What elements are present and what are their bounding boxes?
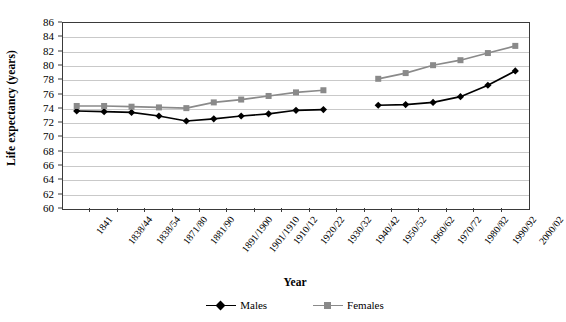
legend-swatch-icon (206, 301, 236, 310)
data-point (485, 50, 491, 56)
y-tick-label: 78 (43, 73, 54, 85)
data-point (101, 103, 107, 109)
x-tick-label: 1910/12 (290, 214, 319, 247)
chart-legend: MalesFemales (62, 299, 528, 311)
x-tick-label: 1871/80 (181, 214, 210, 247)
data-point (238, 97, 244, 103)
data-point (430, 62, 436, 68)
data-point (183, 117, 190, 124)
legend-label: Females (347, 299, 384, 311)
x-tick-label: 1838/54 (153, 214, 182, 247)
y-axis-title-text: Life expectancy (years) (5, 50, 17, 166)
data-point (429, 99, 436, 106)
x-tick-label: 1920/22 (318, 214, 347, 247)
diamond-marker-icon (216, 300, 226, 310)
legend-entry-females[interactable]: Females (313, 299, 384, 311)
series-layer (63, 23, 529, 209)
x-tick-label: 1940/42 (372, 214, 401, 247)
series-line (378, 46, 515, 79)
x-tick-label: 1970/72 (455, 214, 484, 247)
data-point (211, 99, 217, 105)
x-tick-label: 1980/82 (482, 214, 511, 247)
y-tick-label: 82 (43, 45, 54, 57)
data-point (457, 93, 464, 100)
y-tick-label: 68 (43, 145, 54, 157)
x-tick-label: 1841 (93, 214, 114, 237)
data-point (101, 108, 108, 115)
data-point (155, 112, 162, 119)
y-tick-label: 62 (43, 188, 54, 200)
data-point (484, 82, 491, 89)
series-line (378, 71, 515, 105)
x-axis-title: Year (62, 276, 528, 288)
x-axis-tick-labels: 18411838/441838/541871/801881/901891/190… (62, 214, 528, 276)
data-point (74, 103, 80, 109)
data-point (183, 105, 189, 111)
data-point (128, 109, 135, 116)
data-point (512, 43, 518, 49)
data-point (292, 107, 299, 114)
x-tick-label: 1891/1900 (239, 214, 274, 254)
data-point (375, 76, 381, 82)
series-females (74, 43, 519, 111)
y-tick-label: 84 (43, 30, 54, 42)
data-point (457, 57, 463, 63)
data-point (320, 106, 327, 113)
legend-label: Males (240, 299, 267, 311)
x-tick-label: 1901/1910 (267, 214, 302, 254)
legend-entry-males[interactable]: Males (206, 299, 267, 311)
y-tick-label: 74 (43, 102, 54, 114)
data-point (265, 110, 272, 117)
x-tick-label: 1930/32 (345, 214, 374, 247)
series-line (77, 110, 324, 121)
legend-swatch-icon (313, 301, 343, 310)
y-tick-label: 60 (43, 202, 54, 214)
y-tick-label: 66 (43, 159, 54, 171)
x-tick-label: 1960/62 (427, 214, 456, 247)
plot-area (62, 22, 530, 210)
y-tick-label: 80 (43, 59, 54, 71)
series-line (77, 90, 324, 108)
y-axis-title: Life expectancy (years) (0, 0, 22, 215)
data-point (320, 87, 326, 93)
data-point (293, 89, 299, 95)
data-point (238, 112, 245, 119)
y-tick-label: 64 (43, 173, 54, 185)
data-point (129, 104, 135, 110)
data-point (512, 67, 519, 74)
data-point (402, 101, 409, 108)
y-tick-label: 86 (43, 16, 54, 28)
data-point (403, 70, 409, 76)
data-point (210, 115, 217, 122)
x-tick-label: 1990/92 (509, 214, 538, 247)
y-tick-label: 72 (43, 116, 54, 128)
x-tick-label: 2000/02 (537, 214, 566, 247)
data-point (375, 102, 382, 109)
series-males (73, 67, 519, 124)
x-tick-label: 1838/44 (126, 214, 155, 247)
data-point (156, 104, 162, 110)
x-tick-label: 1950/52 (400, 214, 429, 247)
y-tick-label: 76 (43, 88, 54, 100)
data-point (266, 93, 272, 99)
y-tick-label: 70 (43, 130, 54, 142)
square-marker-icon (324, 302, 331, 309)
x-tick-label: 1881/90 (208, 214, 237, 247)
